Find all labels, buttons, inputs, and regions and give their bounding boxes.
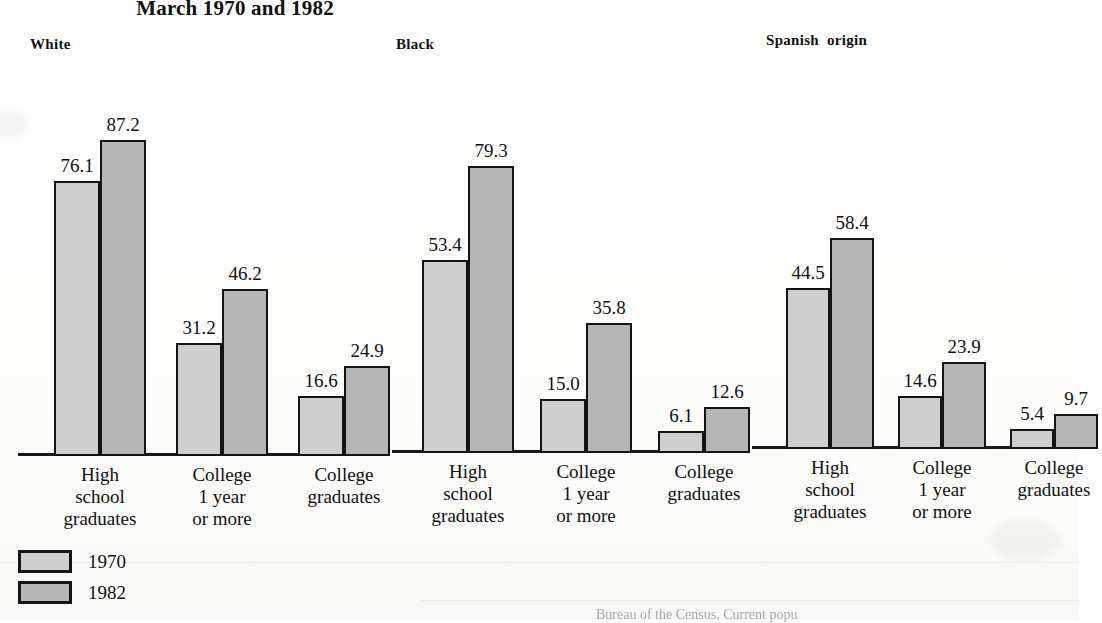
bar-white-1-y1970[interactable] [176, 343, 222, 456]
bar-white-1-y1982[interactable] [222, 289, 268, 456]
bar-spanish-2-y1970[interactable] [1010, 429, 1054, 449]
category-label-spanish-0: High school graduates [765, 457, 895, 523]
bar-black-2-y1982[interactable] [704, 407, 750, 453]
category-label-white-2: College graduates [279, 464, 409, 508]
category-label-white-1: College 1 year or more [157, 464, 287, 530]
chart-title: March 1970 and 1982 [0, 0, 470, 21]
bar-value-white-0-y1970: 76.1 [60, 155, 93, 177]
bar-black-1-y1970[interactable] [540, 399, 586, 453]
panel-spanish: 44.558.4High school graduates14.623.9Col… [752, 100, 1077, 449]
bar-value-black-0-y1970: 53.4 [428, 234, 461, 256]
legend-label-1982: 1982 [88, 582, 126, 604]
bar-white-2-y1970[interactable] [298, 396, 344, 456]
bar-value-spanish-1-y1970: 14.6 [903, 370, 936, 392]
bar-black-2-y1970[interactable] [658, 431, 704, 453]
category-label-black-1: College 1 year or more [521, 461, 651, 527]
bar-value-black-2-y1982: 12.6 [710, 381, 743, 403]
group-header-white: White [30, 36, 71, 53]
bar-spanish-2-y1982[interactable] [1054, 414, 1098, 449]
bar-value-spanish-2-y1982: 9.7 [1064, 388, 1088, 410]
bar-value-spanish-1-y1982: 23.9 [947, 336, 980, 358]
source-note: Bureau of the Census, Current popu [596, 607, 797, 623]
bar-spanish-1-y1970[interactable] [898, 396, 942, 449]
bar-spanish-1-y1982[interactable] [942, 362, 986, 449]
bar-value-spanish-2-y1970: 5.4 [1020, 403, 1044, 425]
legend-label-1970: 1970 [88, 551, 126, 573]
legend-item-1982[interactable]: 1982 [18, 579, 126, 606]
bar-black-1-y1982[interactable] [586, 323, 632, 453]
panel-black: 53.479.3High school graduates15.035.8Col… [392, 100, 722, 453]
legend-swatch-1982 [18, 581, 72, 604]
bar-value-white-0-y1982: 87.2 [106, 114, 139, 136]
bar-black-0-y1982[interactable] [468, 166, 514, 453]
bar-spanish-0-y1970[interactable] [786, 288, 830, 449]
group-header-spanish: Spanish origin [766, 32, 867, 49]
bar-value-black-0-y1982: 79.3 [474, 140, 507, 162]
bar-value-black-2-y1970: 6.1 [669, 405, 693, 427]
category-label-black-0: High school graduates [403, 461, 533, 527]
bar-spanish-0-y1982[interactable] [830, 238, 874, 449]
panel-white: 76.187.2High school graduates31.246.2Col… [18, 100, 358, 456]
bar-white-0-y1982[interactable] [100, 140, 146, 456]
bar-white-2-y1982[interactable] [344, 366, 390, 456]
bar-value-spanish-0-y1970: 44.5 [791, 262, 824, 284]
bar-white-0-y1970[interactable] [54, 181, 100, 456]
bar-value-white-2-y1970: 16.6 [304, 370, 337, 392]
legend-swatch-1970 [18, 550, 72, 573]
category-label-white-0: High school graduates [35, 464, 165, 530]
bar-value-black-1-y1970: 15.0 [546, 373, 579, 395]
bar-value-spanish-0-y1982: 58.4 [835, 212, 868, 234]
bar-value-black-1-y1982: 35.8 [592, 297, 625, 319]
category-label-spanish-2: College graduates [989, 457, 1102, 501]
category-label-spanish-1: College 1 year or more [877, 457, 1007, 523]
group-header-black: Black [396, 36, 434, 53]
category-label-black-2: College graduates [639, 461, 769, 505]
bar-value-white-1-y1982: 46.2 [228, 263, 261, 285]
legend-item-1970[interactable]: 1970 [18, 548, 126, 575]
bar-value-white-1-y1970: 31.2 [182, 317, 215, 339]
bar-value-white-2-y1982: 24.9 [350, 340, 383, 362]
bar-black-0-y1970[interactable] [422, 260, 468, 453]
legend: 1970 1982 [18, 548, 126, 610]
